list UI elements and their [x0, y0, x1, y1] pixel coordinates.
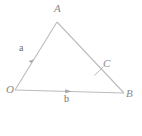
vertex-label-C: C: [103, 58, 110, 69]
triangle-figure: [0, 0, 142, 136]
vector-label-b: b: [64, 94, 69, 104]
vertex-label-A: A: [54, 3, 61, 14]
segment-AB: [57, 22, 124, 93]
vertex-label-B: B: [126, 88, 133, 99]
segment-OA: [15, 22, 57, 90]
geometry-diagram: A O B C a b: [0, 0, 142, 136]
vector-label-a: a: [19, 43, 23, 53]
vertex-label-O: O: [6, 84, 14, 95]
